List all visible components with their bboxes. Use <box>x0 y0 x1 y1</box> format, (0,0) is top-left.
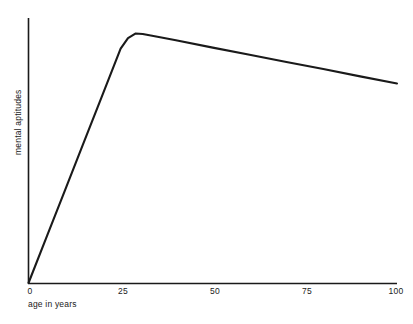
plot-area <box>0 0 413 324</box>
x-tick-label-25: 25 <box>118 286 128 296</box>
x-axis-title: age in years <box>28 299 77 309</box>
y-axis-title: mental aptitudes <box>13 89 23 155</box>
x-tick-label-0: 0 <box>28 286 33 296</box>
mental-aptitudes-line-chart: 0 25 50 75 100 age in years mental aptit… <box>0 0 413 324</box>
x-tick-label-75: 75 <box>302 286 312 296</box>
x-tick-label-100: 100 <box>389 286 404 296</box>
x-tick-label-50: 50 <box>210 286 220 296</box>
aptitude-curve <box>29 34 398 283</box>
